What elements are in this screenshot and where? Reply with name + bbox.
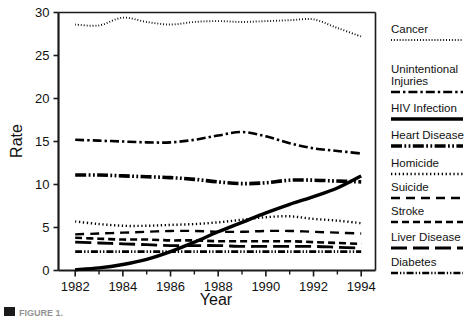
x-tick-label: 1984: [108, 279, 137, 294]
x-tick-label: 1994: [347, 279, 376, 294]
figure-caption-marker: [4, 307, 15, 316]
legend-label: Diabetes: [391, 256, 437, 268]
figure-caption-text: FIGURE 1.: [19, 308, 63, 316]
legend-label: Suicide: [391, 181, 429, 193]
x-axis-title: Year: [200, 291, 233, 308]
legend-label: Heart Disease: [391, 129, 464, 141]
y-tick-label: 30: [35, 5, 49, 20]
legend-label: Homicide: [391, 157, 439, 169]
legend-label: HIV Infection: [391, 102, 457, 114]
y-tick-label: 5: [42, 220, 49, 235]
legend-label: Liver Disease: [391, 231, 461, 243]
y-tick-label: 20: [35, 91, 49, 106]
y-tick-label: 10: [35, 177, 49, 192]
legend-label: Cancer: [391, 23, 428, 35]
x-tick-label: 1986: [156, 279, 185, 294]
x-tick-label: 1990: [251, 279, 280, 294]
y-tick-label: 25: [35, 48, 49, 63]
x-tick-label: 1992: [299, 279, 328, 294]
y-tick-label: 0: [42, 263, 49, 278]
legend-label: Stroke: [391, 205, 424, 217]
figure-root: 051015202530 198219841986198819901992199…: [0, 0, 468, 316]
y-tick-label: 15: [35, 134, 49, 149]
rate-by-year-line-chart: 051015202530 198219841986198819901992199…: [0, 0, 468, 316]
x-tick-label: 1982: [61, 279, 90, 294]
legend-label-line2: Injuries: [391, 75, 428, 87]
legend-label: Unintentional: [391, 63, 458, 75]
y-axis-title: Rate: [8, 124, 25, 158]
